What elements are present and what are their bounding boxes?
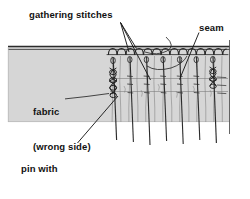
label-gathering-stitches: gathering stitches <box>29 9 113 21</box>
label-pin-line1: pin with <box>21 163 109 175</box>
label-fabric-line1: fabric <box>33 106 91 118</box>
label-seam: seam <box>199 22 224 34</box>
label-pin-line2: gathering threads <box>21 198 109 199</box>
illustration-canvas: gathering stitches seam fabric (wrong si… <box>0 0 250 198</box>
label-pin-caption: pin with gathering threads wound in a fi… <box>21 140 109 198</box>
